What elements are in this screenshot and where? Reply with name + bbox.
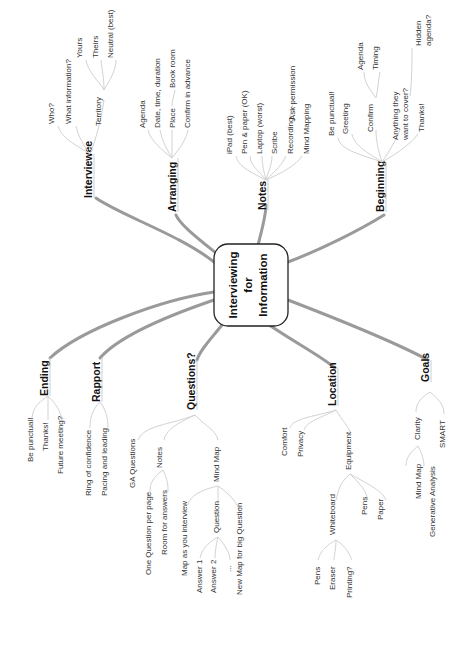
leaf-answer-2: Answer 2 — [209, 559, 218, 593]
leaf-mind-mapping: Mind Mapping — [302, 104, 311, 154]
leaf-greeting: Greeting — [341, 103, 350, 134]
leaf-ga-questions: GA Questions — [128, 439, 137, 488]
leaf-map-as-you-interview: Map as you interview — [180, 501, 189, 576]
leaf-territory: Territory — [94, 97, 103, 126]
leaf-confirm-timing: Timing — [371, 46, 380, 70]
leaf-thanks: Thanks! — [417, 104, 426, 132]
leaf-confirm: Confirm — [366, 104, 375, 132]
leaf-comfort: Comfort — [280, 427, 289, 456]
leaf-equipment-paper: Paper — [376, 498, 385, 520]
leaf-theirs: Theirs — [91, 36, 100, 58]
leaf-new-map-for-big-question: New Map for big Question — [235, 503, 244, 596]
leaf-room-for-answers: Room for answers — [160, 490, 169, 555]
leaf-book-room: Book room — [168, 49, 177, 88]
leaf-confirm-agenda: Agenda — [356, 42, 365, 70]
leaf-laptop: Laptop (worst) — [255, 103, 264, 154]
leaf-smart: SMART — [438, 420, 447, 448]
branch-line-questions — [197, 325, 222, 360]
leaf-date-time-duration: Date, time, duration — [153, 58, 162, 128]
branch-line-notes — [258, 205, 266, 245]
leaf-ring-of-confidence: Ring of confidence — [84, 429, 93, 496]
label-ending: Ending — [38, 360, 50, 396]
leaf-ellipsis: ... — [224, 565, 233, 572]
center-line-3: Information — [257, 253, 269, 316]
node-interviewee[interactable]: Interviewee Who? What information? Terri… — [47, 9, 116, 198]
leaf-what-information: What information? — [64, 59, 73, 124]
leaf-privacy: Privacy — [296, 431, 305, 457]
label-rapport: Rapport — [90, 361, 102, 402]
leaf-ending-be-punctual: Be punctual! — [26, 418, 35, 462]
leaf-ipad: iPad (best) — [225, 115, 234, 154]
leaf-neutral: Neutral (best) — [106, 9, 115, 58]
leaf-future-meeting: Future meeting? — [56, 415, 65, 474]
mind-map-canvas: Interviewing for Information Interviewee… — [0, 0, 469, 646]
label-goals: Goals — [419, 353, 431, 382]
node-rapport[interactable]: Rapport Ring of confidence Pacing and le… — [84, 358, 109, 496]
node-questions[interactable]: Questions? GA Questions Notes Mind Map O… — [128, 352, 244, 595]
leaf-ending-thanks: Thanks! — [41, 423, 50, 451]
center-line-2: for — [242, 277, 254, 293]
label-beginning: Beginning — [374, 161, 386, 212]
branch-line-rapport — [100, 300, 214, 358]
node-goals[interactable]: Goals Clarity SMART Mind Map Generative … — [406, 353, 447, 537]
center-line-1: Interviewing — [227, 251, 239, 318]
leaf-goals-mind-map: Mind Map — [414, 463, 423, 499]
leaf-yours: Yours — [75, 38, 84, 58]
label-questions: Questions? — [185, 352, 197, 410]
leaf-hidden-line-2: agenda? — [424, 14, 433, 46]
branch-line-interviewee — [96, 198, 214, 262]
node-beginning[interactable]: Beginning Be punctual! Greeting Confirm … — [327, 14, 433, 212]
leaf-agenda: Agenda — [138, 100, 147, 128]
leaf-anything-line-2: want to cover? — [401, 87, 410, 141]
leaf-printing: Printing? — [345, 566, 354, 598]
leaf-pacing-and-leading: Pacing and leading — [100, 428, 109, 496]
leaf-whiteboard-pens: Pens — [313, 567, 322, 585]
leaf-clarity: Clarity — [413, 417, 422, 440]
leaf-be-punctual: Be punctual! — [327, 92, 336, 136]
node-ending[interactable]: Ending Be punctual! Thanks! Future meeti… — [26, 358, 65, 474]
leaf-whiteboard: Whiteboard — [328, 494, 337, 535]
node-arranging[interactable]: Arranging Agenda Date, time, duration Pl… — [138, 49, 192, 212]
leaf-generative-analysis: Generative Analysis — [428, 466, 437, 537]
node-notes[interactable]: Notes iPad (best) Pen & paper (OK) Lapto… — [225, 66, 311, 210]
leaf-confirm-in-advance: Confirm in advance — [183, 59, 192, 128]
leaf-mind-map: Mind Map — [212, 446, 221, 482]
center-node[interactable]: Interviewing for Information — [214, 244, 288, 326]
leaf-anything-line-1: Anything they — [391, 92, 400, 140]
label-arranging: Arranging — [166, 162, 178, 212]
branch-line-ending — [50, 292, 214, 358]
leaf-place: Place — [168, 107, 177, 128]
leaf-ask-permission: Ask permission — [288, 66, 297, 120]
leaf-scribe: Scribe — [270, 131, 279, 154]
leaf-who: Who? — [47, 103, 56, 124]
branch-line-beginning — [288, 215, 384, 262]
leaf-answer-1: Answer 1 — [195, 559, 204, 593]
leaf-one-question-per-page: One Question per page — [144, 491, 153, 575]
leaf-equipment-pens: Pens — [360, 497, 369, 515]
leaf-pen-paper: Pen & paper (OK) — [240, 90, 249, 154]
node-location[interactable]: Location Comfort Privacy Equipment White… — [280, 362, 386, 598]
leaf-eraser: Eraser — [328, 566, 337, 590]
leaf-hidden-line-1: Hidden — [414, 21, 423, 46]
leaf-recording: Recording — [286, 118, 295, 154]
branch-line-location — [262, 320, 335, 368]
label-notes: Notes — [256, 181, 268, 210]
leaf-question: Question — [212, 501, 221, 533]
leaf-equipment: Equipment — [344, 431, 353, 470]
label-location: Location — [326, 362, 338, 406]
leaf-questions-notes: Notes — [155, 447, 164, 468]
